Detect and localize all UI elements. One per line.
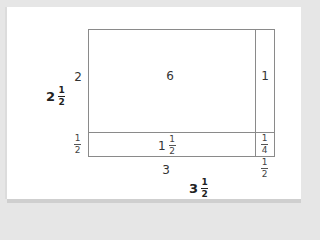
cell-bottom-left-value: 1 1 2: [158, 135, 176, 156]
bottom-right-label: 1 2: [261, 158, 268, 179]
total-width-label: 3 1 2: [189, 178, 208, 199]
left-top-label: 2: [73, 71, 83, 83]
left-bottom-label: 1 2: [74, 134, 81, 155]
bottom-left-label: 3: [160, 164, 172, 176]
rect-left-edge: [88, 29, 89, 157]
vertical-divider: [255, 29, 256, 157]
cell-bottom-right-fraction: 1 4: [261, 134, 268, 155]
cell-top-right-value: 1: [256, 70, 274, 82]
rect-top-edge: [88, 29, 275, 30]
cell-bottom-left-fraction: 1 2: [169, 135, 176, 156]
total-height-label: 2 1 2: [46, 86, 65, 107]
rect-bottom-edge: [88, 156, 275, 157]
rect-right-edge: [274, 29, 275, 157]
cell-top-left-value: 6: [160, 70, 180, 82]
cell-bottom-left-whole: 1: [158, 140, 166, 152]
horizontal-divider: [88, 132, 275, 133]
